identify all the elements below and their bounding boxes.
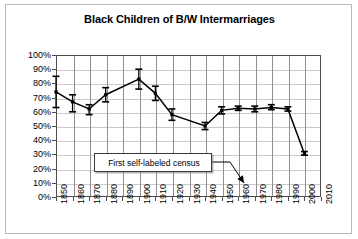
y-axis-tick (52, 154, 56, 155)
x-axis-tick-label: 1960 (242, 184, 251, 204)
x-axis-tick (238, 197, 239, 201)
x-axis-tick (73, 197, 74, 201)
y-axis-tick (52, 98, 56, 99)
x-axis-tick-label: 2000 (308, 184, 317, 204)
annotation-box: First self-labeled census (94, 153, 212, 172)
x-axis-tick (56, 197, 57, 201)
x-axis-tick-label: 1910 (159, 184, 168, 204)
data-point-marker (253, 107, 256, 110)
y-axis-tick-label: 20% (11, 165, 51, 174)
x-axis-tick-label: 1940 (209, 184, 218, 204)
annotation-label: First self-labeled census (95, 158, 213, 168)
y-axis-tick-label: 50% (11, 122, 51, 131)
y-axis-tick-label: 10% (11, 179, 51, 188)
y-axis-tick (52, 126, 56, 127)
x-axis-tick (205, 197, 206, 201)
x-axis-tick-label: 1890 (126, 184, 135, 204)
annotation-arrow-head (237, 175, 244, 183)
x-axis-tick-label: 1850 (60, 184, 69, 204)
y-axis-tick-label: 30% (11, 150, 51, 159)
x-axis-tick-label: 1900 (143, 184, 152, 204)
y-axis-tick-label: 60% (11, 108, 51, 117)
data-point-marker (88, 107, 91, 110)
y-axis-tick (52, 183, 56, 184)
data-point-marker (203, 124, 206, 127)
chart-title: Black Children of B/W Intermarriages (6, 13, 353, 25)
data-point-marker (154, 92, 157, 95)
x-axis-tick (321, 197, 322, 201)
x-axis-tick (222, 197, 223, 201)
data-point-marker (170, 113, 173, 116)
x-axis-tick (139, 197, 140, 201)
x-axis-tick (304, 197, 305, 201)
y-axis-tick-label: 0% (11, 193, 51, 202)
x-axis-tick (155, 197, 156, 201)
data-layer (56, 55, 321, 197)
series-line (56, 79, 304, 154)
x-axis-tick-label: 1990 (292, 184, 301, 204)
x-axis-tick-label: 1980 (275, 184, 284, 204)
y-axis-tick (52, 140, 56, 141)
y-axis-tick-label: 90% (11, 65, 51, 74)
y-axis-tick (52, 112, 56, 113)
y-axis-tick (52, 55, 56, 56)
data-point-marker (270, 106, 273, 109)
y-axis-tick (52, 69, 56, 70)
x-axis-tick-label: 1950 (226, 184, 235, 204)
data-point-marker (237, 107, 240, 110)
x-axis-tick (189, 197, 190, 201)
x-axis-tick-label: 2010 (325, 184, 334, 204)
x-axis-tick-label: 1970 (259, 184, 268, 204)
data-point-marker (54, 90, 57, 93)
y-axis-tick-label: 70% (11, 94, 51, 103)
x-axis-tick (271, 197, 272, 201)
x-axis-tick (106, 197, 107, 201)
y-axis-tick-label: 80% (11, 79, 51, 88)
x-axis-tick (89, 197, 90, 201)
chart-frame: Black Children of B/W Intermarriages Fir… (5, 4, 352, 234)
x-axis-tick-label: 1870 (93, 184, 102, 204)
x-axis-tick (255, 197, 256, 201)
y-axis-tick (52, 169, 56, 170)
y-axis-tick-label: 40% (11, 136, 51, 145)
x-axis-tick-label: 1920 (176, 184, 185, 204)
x-axis-tick-label: 1930 (193, 184, 202, 204)
x-axis-tick-label: 1880 (110, 184, 119, 204)
y-axis-tick (52, 83, 56, 84)
data-point-marker (137, 78, 140, 81)
data-point-marker (220, 109, 223, 112)
data-point-marker (303, 152, 306, 155)
data-point-marker (286, 107, 289, 110)
x-axis-tick (122, 197, 123, 201)
x-axis-tick (288, 197, 289, 201)
data-point-marker (71, 100, 74, 103)
data-point-marker (104, 93, 107, 96)
y-axis-tick-label: 100% (11, 51, 51, 60)
x-axis-tick (172, 197, 173, 201)
x-axis-tick-label: 1860 (77, 184, 86, 204)
